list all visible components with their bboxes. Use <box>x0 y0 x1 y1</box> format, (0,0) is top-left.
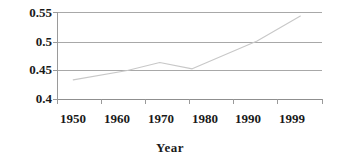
x-tick-end <box>322 99 323 104</box>
x-tick-1990 <box>233 99 234 104</box>
y-axis-line <box>57 12 58 100</box>
x-tick-1950 <box>57 99 58 104</box>
gridline-0-55 <box>57 12 322 13</box>
x-tick-1970 <box>145 99 146 104</box>
y-tick-label-0-4: 0.4 <box>0 92 52 105</box>
x-axis-title: Year <box>0 140 340 156</box>
y-tick-label-0-45: 0.45 <box>0 63 52 76</box>
x-axis-line <box>57 99 323 100</box>
x-tick-1980 <box>189 99 190 104</box>
y-tick-0-5 <box>53 42 58 43</box>
y-tick-0-45 <box>53 70 58 71</box>
gridline-0-5 <box>57 42 322 43</box>
y-tick-0-55 <box>53 12 58 13</box>
plot-area <box>57 12 322 99</box>
gridline-0-45 <box>57 70 322 71</box>
chart-screenshot: 0.55 0.5 0.45 0.4 1950 1960 1970 1980 19… <box>0 0 340 167</box>
x-tick-1960 <box>101 99 102 104</box>
y-tick-label-0-55: 0.55 <box>0 6 52 19</box>
x-tick-label-1999: 1999 <box>262 112 322 126</box>
x-tick-1999 <box>277 99 278 104</box>
y-tick-label-0-5: 0.5 <box>0 35 52 48</box>
